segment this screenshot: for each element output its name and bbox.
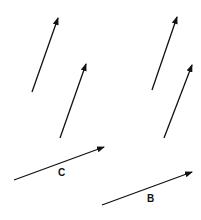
arrow-icon	[32, 18, 58, 92]
vector-label: B	[147, 193, 154, 204]
vector-v3	[152, 17, 177, 90]
vector-v1	[32, 18, 58, 92]
vector-c: C	[14, 147, 104, 180]
vector-v2	[60, 64, 86, 138]
vector-diagram: CB	[0, 0, 201, 220]
vector-label: C	[58, 167, 65, 178]
vector-v4	[164, 65, 192, 138]
arrow-icon	[60, 64, 86, 138]
arrow-icon	[164, 65, 192, 138]
vector-b: B	[102, 172, 192, 205]
arrow-icon	[152, 17, 177, 90]
